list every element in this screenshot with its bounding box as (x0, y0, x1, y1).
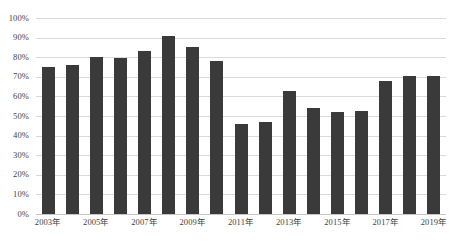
x-axis-tick-label: 2005年 (83, 217, 110, 227)
y-axis-tick-label: 30% (13, 151, 29, 160)
y-axis-tick-label: 70% (13, 72, 29, 81)
bar (283, 91, 296, 214)
y-axis-tick-label: 10% (13, 190, 29, 199)
bar (355, 111, 368, 214)
y-axis-tick-label: 100% (9, 14, 29, 23)
x-axis-tick-label: 2015年 (324, 217, 351, 227)
y-axis-tick-label: 80% (13, 53, 29, 62)
bar (66, 65, 79, 214)
y-axis-tick-label: 40% (13, 131, 29, 140)
x-axis-tick-label: 2013年 (276, 217, 303, 227)
y-axis-tick-label: 20% (13, 170, 29, 179)
x-axis-tick-label: 2007年 (131, 217, 158, 227)
bar (138, 51, 151, 214)
x-axis-tick-label: 2017年 (372, 217, 399, 227)
x-axis: 2003年2005年2007年2009年2011年2013年2015年2017年… (36, 217, 446, 239)
y-axis-tick-label: 60% (13, 92, 29, 101)
bar (210, 61, 223, 214)
bar (403, 76, 416, 214)
x-axis-tick-label: 2009年 (180, 217, 207, 227)
bar-chart: 100%90%80%70%60%50%40%30%20%10%0% 2003年2… (0, 0, 449, 252)
bar (186, 47, 199, 214)
bar (235, 124, 248, 214)
bar (42, 67, 55, 214)
bar (259, 122, 272, 214)
bar (307, 108, 320, 214)
bar (427, 76, 440, 214)
bar (331, 112, 344, 214)
y-axis-tick-label: 90% (13, 33, 29, 42)
x-axis-tick-label: 2019年 (421, 217, 448, 227)
y-axis-tick-label: 50% (13, 112, 29, 121)
gridline (36, 214, 446, 215)
bar (90, 57, 103, 214)
bar-series (36, 18, 446, 214)
bar (379, 81, 392, 214)
y-axis: 100%90%80%70%60%50%40%30%20%10%0% (0, 0, 33, 252)
bar (114, 58, 127, 214)
x-axis-tick-label: 2003年 (35, 217, 62, 227)
x-axis-tick-label: 2011年 (228, 217, 254, 227)
y-axis-tick-label: 0% (17, 210, 29, 219)
bar (162, 36, 175, 214)
